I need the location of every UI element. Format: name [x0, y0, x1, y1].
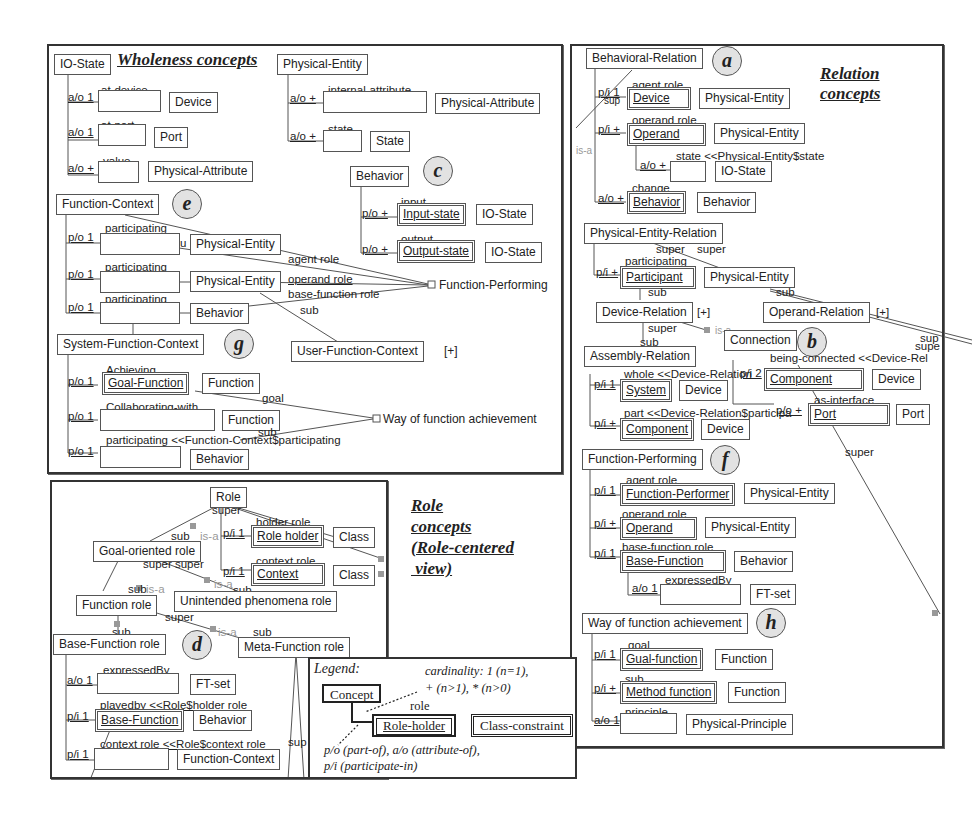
concept-connection[interactable]: Connection	[724, 330, 797, 351]
role-holder-slot[interactable]	[98, 161, 139, 183]
cardinality-label: a/o 1	[68, 126, 94, 139]
link-label-operand-role: operand role	[288, 273, 353, 286]
role-holder-slot[interactable]	[98, 90, 161, 112]
role-holder-slot[interactable]	[660, 584, 741, 605]
role-holder-gual-function[interactable]: Gual-function	[620, 648, 703, 671]
role-holder-slot[interactable]	[97, 673, 179, 694]
class-constraint-physical-principle[interactable]: Physical-Principle	[686, 714, 793, 735]
role-holder-operand[interactable]: Operand	[627, 123, 706, 146]
concept-behavioral-relation[interactable]: Behavioral-Relation	[586, 48, 703, 69]
role-holder-slot[interactable]	[323, 91, 427, 113]
role-holder-goal-function[interactable]: Goal-Function	[102, 372, 189, 395]
role-holder-function-performer[interactable]: Function-Performer	[620, 483, 735, 506]
concept-function-performing[interactable]: Function-Performing	[582, 449, 703, 470]
expand-button[interactable]: [+]	[697, 306, 710, 319]
role-holder-port[interactable]: Port	[808, 403, 890, 426]
class-constraint-device[interactable]: Device	[872, 369, 921, 390]
concept-base-function-role[interactable]: Base-Function role	[53, 634, 166, 655]
role-holder-method-function[interactable]: Method function	[620, 681, 717, 704]
class-constraint-physical-attribute[interactable]: Physical-Attribute	[435, 93, 540, 114]
class-constraint-physical-entity[interactable]: Physical-Entity	[705, 517, 796, 538]
role-holder-slot[interactable]	[620, 713, 677, 734]
role-title-line4: view)	[411, 559, 452, 579]
class-constraint-physical-attribute[interactable]: Physical-Attribute	[148, 161, 253, 182]
class-constraint-class[interactable]: Class	[333, 565, 375, 586]
link-target-way-of-function-achievement[interactable]: Way of function achievement	[383, 413, 537, 426]
concept-way-of-function-achievement[interactable]: Way of function achievement	[582, 613, 748, 634]
class-constraint-physical-entity[interactable]: Physical-Entity	[714, 123, 805, 144]
role-holder-component[interactable]: Component	[620, 418, 694, 441]
concept-operand-relation[interactable]: Operand-Relation	[763, 302, 870, 323]
concept-physical-entity[interactable]: Physical-Entity	[277, 54, 368, 75]
super-label: super	[212, 504, 241, 517]
class-constraint-class[interactable]: Class	[333, 527, 375, 548]
concept-system-function-context[interactable]: System-Function-Context	[57, 334, 204, 355]
role-holder-role-holder[interactable]: Role holder	[251, 525, 324, 548]
class-constraint-state[interactable]: State	[370, 131, 410, 152]
concept-assembly-relation[interactable]: Assembly-Relation	[584, 346, 696, 367]
role-holder-slot[interactable]	[100, 446, 181, 468]
class-constraint-behavior[interactable]: Behavior	[190, 449, 249, 470]
class-constraint-behavior[interactable]: Behavior	[193, 710, 252, 731]
role-holder-slot[interactable]	[94, 748, 169, 770]
class-constraint-device[interactable]: Device	[679, 380, 728, 401]
role-holder-operand[interactable]: Operand	[620, 517, 697, 540]
concept-function-context[interactable]: Function-Context	[56, 194, 159, 215]
role-holder-system[interactable]: System	[620, 379, 672, 402]
role-holder-behavior[interactable]: Behavior	[627, 191, 686, 214]
class-constraint-device[interactable]: Device	[169, 92, 218, 113]
class-constraint-ft-set[interactable]: FT-set	[190, 674, 236, 695]
class-constraint-physical-entity[interactable]: Physical-Entity	[190, 234, 281, 255]
role-holder-output-state[interactable]: Output-state	[397, 240, 475, 263]
concept-meta-function-role[interactable]: Meta-Function role	[238, 637, 350, 658]
class-constraint-function[interactable]: Function	[715, 649, 773, 670]
legend-relation-line1: p/o (part-of), a/o (attribute-of),	[324, 743, 480, 758]
class-constraint-behavior[interactable]: Behavior	[190, 303, 249, 324]
cardinality-label: p/o 1	[68, 268, 94, 281]
relation-title-line1: Relation	[820, 64, 880, 84]
concept-physical-entity-relation[interactable]: Physical-Entity-Relation	[584, 223, 723, 244]
role-holder-base-function[interactable]: Base-Function	[95, 709, 184, 732]
class-constraint-ft-set[interactable]: FT-set	[750, 584, 796, 605]
sub-label: sub	[648, 286, 667, 299]
class-constraint-function[interactable]: Function	[202, 373, 260, 394]
class-constraint-io-state[interactable]: IO-State	[485, 242, 542, 263]
role-holder-slot[interactable]	[100, 302, 180, 324]
concept-unintended-phenomena-role[interactable]: Unintended phenomena role	[174, 591, 337, 612]
role-holder-context[interactable]: Context	[251, 563, 325, 586]
class-constraint-port[interactable]: Port	[154, 127, 188, 148]
role-holder-slot[interactable]	[100, 271, 180, 293]
concept-behavior[interactable]: Behavior	[350, 166, 409, 187]
concept-function-role[interactable]: Function role	[76, 595, 157, 616]
class-constraint-physical-entity[interactable]: Physical-Entity	[699, 88, 790, 109]
role-holder-base-function[interactable]: Base-Function	[620, 550, 726, 573]
class-constraint-behavior[interactable]: Behavior	[734, 551, 793, 572]
concept-io-state[interactable]: IO-State	[54, 54, 111, 75]
class-constraint-function[interactable]: Function	[728, 682, 786, 703]
class-constraint-function-context[interactable]: Function-Context	[177, 749, 280, 770]
role-holder-slot[interactable]	[100, 233, 180, 255]
class-constraint-io-state[interactable]: IO-State	[715, 161, 772, 182]
role-holder-device[interactable]: Device	[627, 87, 691, 110]
role-holder-input-state[interactable]: Input-state	[397, 203, 466, 226]
expand-button[interactable]: [+]	[876, 306, 889, 319]
class-constraint-device[interactable]: Device	[701, 419, 750, 440]
role-holder-slot[interactable]	[98, 124, 146, 146]
class-constraint-physical-entity[interactable]: Physical-Entity	[744, 483, 835, 504]
marker-a: a	[712, 46, 742, 76]
expand-button[interactable]: [+]	[444, 345, 458, 358]
role-holder-slot[interactable]	[100, 409, 215, 431]
link-target-function-performing[interactable]: Function-Performing	[439, 279, 548, 292]
role-holder-component[interactable]: Component	[764, 368, 864, 391]
class-constraint-io-state[interactable]: IO-State	[476, 204, 533, 225]
concept-user-function-context[interactable]: User-Function-Context	[291, 341, 424, 362]
role-holder-slot[interactable]	[670, 161, 706, 182]
class-constraint-physical-entity[interactable]: Physical-Entity	[704, 267, 795, 288]
role-holder-slot[interactable]	[323, 130, 362, 152]
cardinality-label: a/o +	[68, 162, 94, 175]
class-constraint-port[interactable]: Port	[896, 404, 930, 425]
concept-device-relation[interactable]: Device-Relation	[596, 302, 693, 323]
cardinality-label: a/o 1	[632, 582, 658, 595]
class-constraint-physical-entity[interactable]: Physical-Entity	[190, 271, 281, 292]
class-constraint-behavior[interactable]: Behavior	[697, 192, 756, 213]
